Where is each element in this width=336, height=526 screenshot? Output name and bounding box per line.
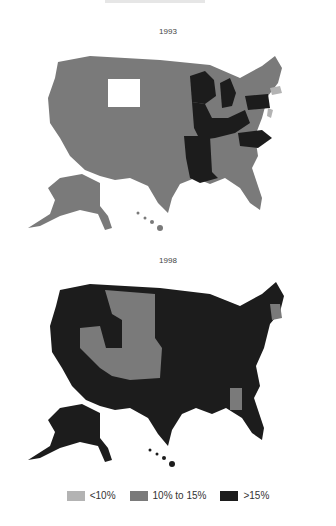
legend-item-low: <10% bbox=[67, 490, 116, 501]
legend-label-mid: 10% to 15% bbox=[153, 490, 207, 501]
us-map-1998 bbox=[0, 268, 336, 478]
legend-swatch-mid bbox=[130, 491, 148, 501]
map-year-1993: 1993 bbox=[0, 27, 336, 36]
legend-label-high: >15% bbox=[243, 490, 269, 501]
map-year-1998: 1998 bbox=[0, 256, 336, 265]
legend: <10% 10% to 15% >15% bbox=[0, 490, 336, 501]
legend-label-low: <10% bbox=[90, 490, 116, 501]
legend-item-high: >15% bbox=[220, 490, 269, 501]
cropped-title bbox=[105, 0, 205, 3]
legend-swatch-high bbox=[220, 491, 238, 501]
us-map-1993 bbox=[0, 38, 336, 243]
legend-item-mid: 10% to 15% bbox=[130, 490, 207, 501]
legend-swatch-low bbox=[67, 491, 85, 501]
